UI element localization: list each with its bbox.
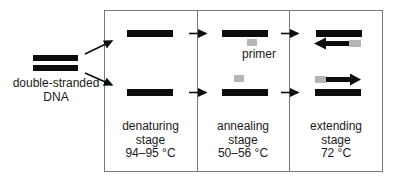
denatured-bottom-strand-bar [127, 89, 173, 96]
dna-label-line1: double-stranded [6, 77, 106, 91]
stage-name: annealing [197, 120, 289, 134]
stage-caption-extending: extending stage 72 °C [289, 120, 383, 161]
primer-label: primer [224, 48, 294, 62]
extending-top-template-bar [316, 30, 362, 37]
primer-square-bottom [234, 75, 244, 82]
stage-name: extending [289, 120, 383, 134]
stage-word: stage [197, 134, 289, 148]
dna-label-line2: DNA [6, 91, 106, 105]
stage-word: stage [289, 134, 383, 148]
primer-square-top [247, 39, 257, 46]
dna-double-strand-bottom-bar [33, 65, 78, 71]
dna-label: double-stranded DNA [6, 77, 106, 104]
extending-bottom-template-bar [315, 89, 361, 96]
primer-square-extending-bottom [315, 76, 326, 83]
stage-name: denaturing [104, 120, 197, 134]
stage-caption-denaturing: denaturing stage 94–95 °C [104, 120, 197, 161]
stage-temperature: 50–56 °C [197, 147, 289, 161]
denatured-top-strand-bar [127, 30, 173, 37]
pcr-stages-diagram: double-stranded DNA denaturing stage 94–… [0, 0, 397, 186]
annealing-top-strand-bar [222, 30, 268, 37]
dna-double-strand-top-bar [33, 55, 78, 61]
stage-word: stage [104, 134, 197, 148]
annealing-bottom-strand-bar [222, 89, 268, 96]
stage-temperature: 72 °C [289, 147, 383, 161]
stage-temperature: 94–95 °C [104, 147, 197, 161]
stage-caption-annealing: annealing stage 50–56 °C [197, 120, 289, 161]
primer-square-extending-top [349, 40, 361, 47]
